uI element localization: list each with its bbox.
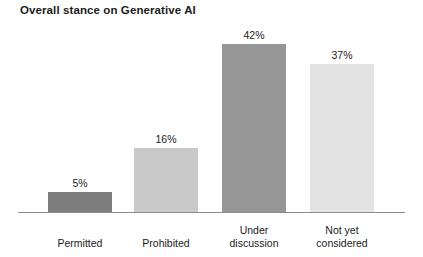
bar-under-discussion[interactable] — [222, 44, 286, 212]
bar-permitted[interactable] — [48, 192, 112, 212]
bar-category-line: Prohibited — [118, 237, 214, 250]
bar-category-line: Under — [206, 224, 302, 237]
bar-category-line: discussion — [206, 237, 302, 250]
bar-group-permitted: 5% Permitted — [48, 0, 112, 257]
bar-category-line: Not yet — [294, 224, 390, 237]
bar-group-prohibited: 16% Prohibited — [134, 0, 198, 257]
bar-group-not-yet-considered: 37% Not yet considered — [310, 0, 374, 257]
bar-category-line: Permitted — [32, 237, 128, 250]
bar-category-label: Under discussion — [206, 224, 302, 249]
bar-value-label: 16% — [134, 133, 198, 145]
bar-prohibited[interactable] — [134, 148, 198, 212]
bar-value-label: 42% — [222, 29, 286, 41]
bar-chart: Overall stance on Generative AI 5% Permi… — [0, 0, 423, 257]
bar-value-label: 37% — [310, 49, 374, 61]
plot-area: 5% Permitted 16% Prohibited 42% Under di… — [0, 0, 423, 257]
bar-group-under-discussion: 42% Under discussion — [222, 0, 286, 257]
bar-category-label: Not yet considered — [294, 224, 390, 249]
bar-category-line: considered — [294, 237, 390, 250]
bar-category-label: Permitted — [32, 237, 128, 250]
bar-not-yet-considered[interactable] — [310, 64, 374, 212]
bar-category-label: Prohibited — [118, 237, 214, 250]
bar-value-label: 5% — [48, 177, 112, 189]
